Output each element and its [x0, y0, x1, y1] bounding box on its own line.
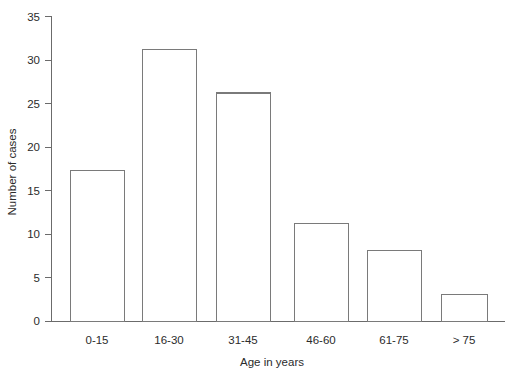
y-tick-label: 35	[27, 11, 40, 23]
bar[interactable]	[295, 224, 349, 322]
x-tick-label: 0-15	[85, 334, 108, 346]
y-tick-label: 10	[27, 228, 40, 240]
bar[interactable]	[217, 93, 271, 321]
x-tick-label: 46-60	[306, 334, 335, 346]
bars-group	[71, 49, 488, 321]
bar[interactable]	[368, 251, 422, 322]
x-tick-label: > 75	[453, 334, 476, 346]
bar[interactable]	[143, 49, 197, 321]
x-tick-label: 31-45	[228, 334, 257, 346]
chart-canvas: 35 30 25 20 15 10 5 0 0-15 16-30 31-45 4…	[0, 0, 514, 375]
y-tick-label: 15	[27, 185, 40, 197]
bar[interactable]	[442, 294, 488, 321]
y-tick-label: 5	[34, 272, 40, 284]
y-tick-label: 0	[34, 315, 40, 327]
bar[interactable]	[71, 171, 125, 322]
y-tick-label: 25	[27, 98, 40, 110]
y-axis-ticks	[45, 17, 52, 322]
bar-chart-figure: 35 30 25 20 15 10 5 0 0-15 16-30 31-45 4…	[0, 0, 514, 375]
y-tick-label: 30	[27, 54, 40, 66]
y-tick-label: 20	[27, 141, 40, 153]
x-tick-label: 61-75	[379, 334, 408, 346]
y-axis-title: Number of cases	[6, 128, 18, 215]
x-axis-title: Age in years	[240, 356, 304, 368]
x-tick-label: 16-30	[154, 334, 183, 346]
